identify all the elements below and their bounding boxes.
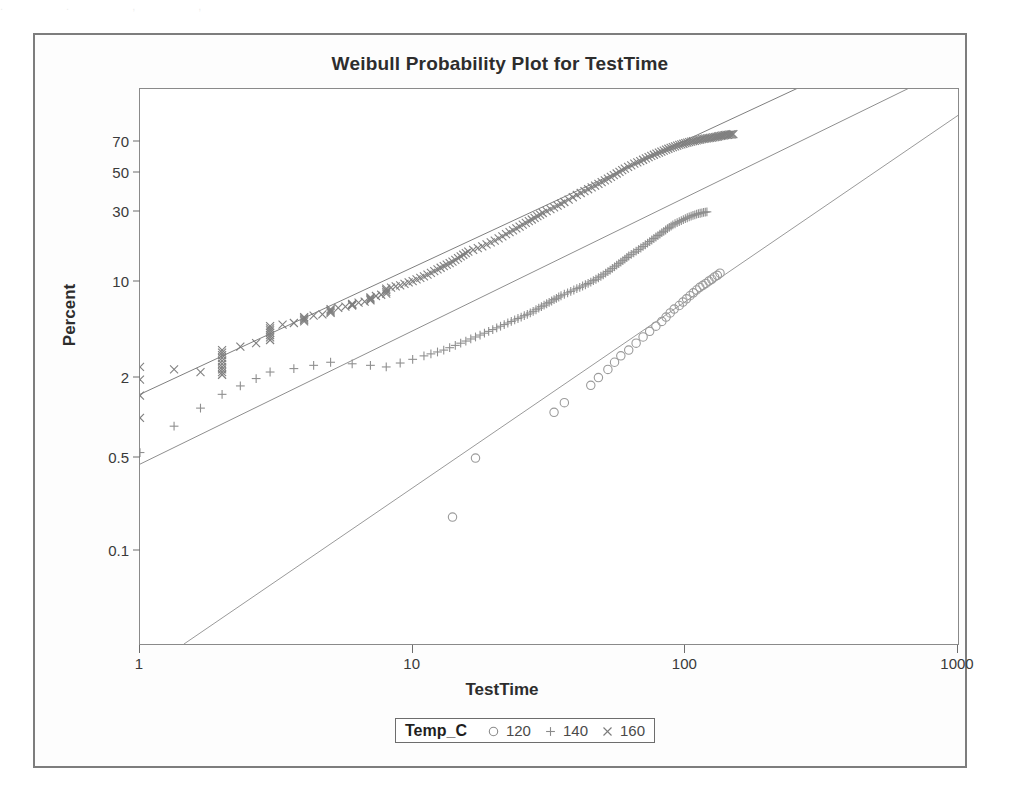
y-tick-label: 70 bbox=[112, 132, 129, 149]
plus-marker bbox=[366, 361, 375, 370]
plus-marker bbox=[326, 358, 335, 367]
plus-marker bbox=[476, 331, 485, 340]
cross-marker bbox=[580, 187, 588, 195]
circle-marker bbox=[550, 408, 558, 416]
plus-marker bbox=[218, 390, 227, 399]
plus-marker bbox=[451, 341, 460, 350]
y-tick-label: 50 bbox=[112, 164, 129, 181]
circle-marker bbox=[625, 346, 633, 354]
cross-marker bbox=[310, 312, 318, 320]
plus-marker bbox=[456, 339, 465, 348]
circle-marker bbox=[448, 513, 456, 521]
legend-entry-label: 160 bbox=[620, 722, 645, 739]
cross-marker bbox=[546, 205, 554, 213]
plus-marker bbox=[348, 359, 357, 368]
plus-marker bbox=[439, 346, 448, 355]
legend-entry-label: 120 bbox=[506, 722, 531, 739]
cross-marker bbox=[457, 252, 465, 260]
cross-marker bbox=[140, 392, 144, 400]
screenshot-page: . . , , Weibull Probability Plot for Tes… bbox=[0, 0, 1011, 787]
plus-marker bbox=[420, 351, 429, 360]
plot-canvas bbox=[140, 89, 958, 644]
y-tick-mark bbox=[133, 140, 140, 141]
y-tick-label: 0.5 bbox=[108, 449, 129, 466]
y-tick-label: 0.1 bbox=[108, 542, 129, 559]
x-tick-mark bbox=[957, 645, 958, 653]
y-tick-label: 30 bbox=[112, 202, 129, 219]
chart-title: Weibull Probability Plot for TestTime bbox=[35, 53, 965, 75]
cross-marker bbox=[604, 728, 612, 736]
legend-entry: 120 bbox=[487, 722, 531, 739]
cross-marker bbox=[348, 300, 356, 308]
cross-marker bbox=[601, 724, 614, 737]
circle-marker bbox=[487, 724, 500, 737]
fit-line bbox=[140, 89, 958, 464]
circle-marker bbox=[652, 322, 660, 330]
circle-marker bbox=[587, 381, 595, 389]
circle-marker bbox=[632, 339, 640, 347]
cross-marker bbox=[290, 319, 298, 327]
plus-marker bbox=[252, 374, 261, 383]
scan-artifact-top: . . , , bbox=[0, 0, 1011, 18]
y-tick-mark bbox=[133, 281, 140, 282]
cross-marker bbox=[459, 251, 467, 259]
plus-marker bbox=[266, 368, 275, 377]
cross-marker bbox=[498, 232, 506, 240]
plus-marker bbox=[408, 355, 417, 364]
cross-marker bbox=[140, 376, 144, 384]
plus-marker bbox=[382, 363, 391, 372]
y-tick-mark bbox=[133, 210, 140, 211]
cross-marker bbox=[196, 368, 204, 376]
plus-marker bbox=[544, 724, 557, 737]
legend-entry-label: 140 bbox=[563, 722, 588, 739]
plus-marker bbox=[689, 211, 698, 220]
plus-marker bbox=[484, 327, 493, 336]
cross-marker bbox=[565, 196, 573, 204]
plus-marker bbox=[236, 382, 245, 391]
y-tick-mark bbox=[133, 376, 140, 377]
circle-marker bbox=[604, 365, 612, 373]
plus-marker bbox=[488, 325, 497, 334]
plus-marker bbox=[289, 364, 298, 373]
legend: Temp_C 120140160 bbox=[395, 718, 655, 743]
x-tick-label: 10 bbox=[403, 655, 420, 672]
plus-marker bbox=[461, 337, 470, 346]
cross-marker bbox=[341, 303, 349, 311]
circle-marker bbox=[560, 398, 568, 406]
plus-marker bbox=[480, 329, 489, 338]
plus-marker bbox=[427, 349, 436, 358]
plus-marker bbox=[466, 335, 475, 344]
plot-area bbox=[139, 88, 959, 645]
y-axis-title: Percent bbox=[60, 245, 80, 385]
y-tick-mark bbox=[133, 457, 140, 458]
cross-marker bbox=[318, 310, 326, 318]
y-tick-mark bbox=[133, 550, 140, 551]
x-tick-mark bbox=[412, 645, 413, 653]
cross-marker bbox=[279, 321, 287, 329]
plus-marker bbox=[433, 348, 442, 357]
graph-frame: Weibull Probability Plot for TestTime 70… bbox=[33, 33, 967, 768]
plus-marker bbox=[492, 323, 501, 332]
y-tick-mark bbox=[133, 172, 140, 173]
x-tick-label: 100 bbox=[672, 655, 697, 672]
plus-marker bbox=[445, 343, 454, 352]
x-tick-mark bbox=[684, 645, 685, 653]
plus-marker bbox=[196, 404, 205, 413]
cross-marker bbox=[140, 414, 144, 422]
cross-marker bbox=[569, 193, 577, 201]
plus-marker bbox=[309, 361, 318, 370]
legend-entry: 160 bbox=[601, 722, 645, 739]
plus-marker bbox=[140, 448, 144, 457]
circle-marker bbox=[471, 454, 479, 462]
x-tick-label: 1000 bbox=[940, 655, 973, 672]
plus-marker bbox=[396, 359, 405, 368]
y-tick-label: 10 bbox=[112, 273, 129, 290]
cross-marker bbox=[462, 249, 470, 257]
cross-marker bbox=[334, 304, 342, 312]
cross-marker bbox=[170, 365, 178, 373]
plus-marker bbox=[546, 727, 555, 736]
legend-entry: 140 bbox=[544, 722, 588, 739]
plus-marker bbox=[687, 212, 696, 221]
cross-marker bbox=[140, 363, 144, 371]
circle-marker bbox=[594, 373, 602, 381]
